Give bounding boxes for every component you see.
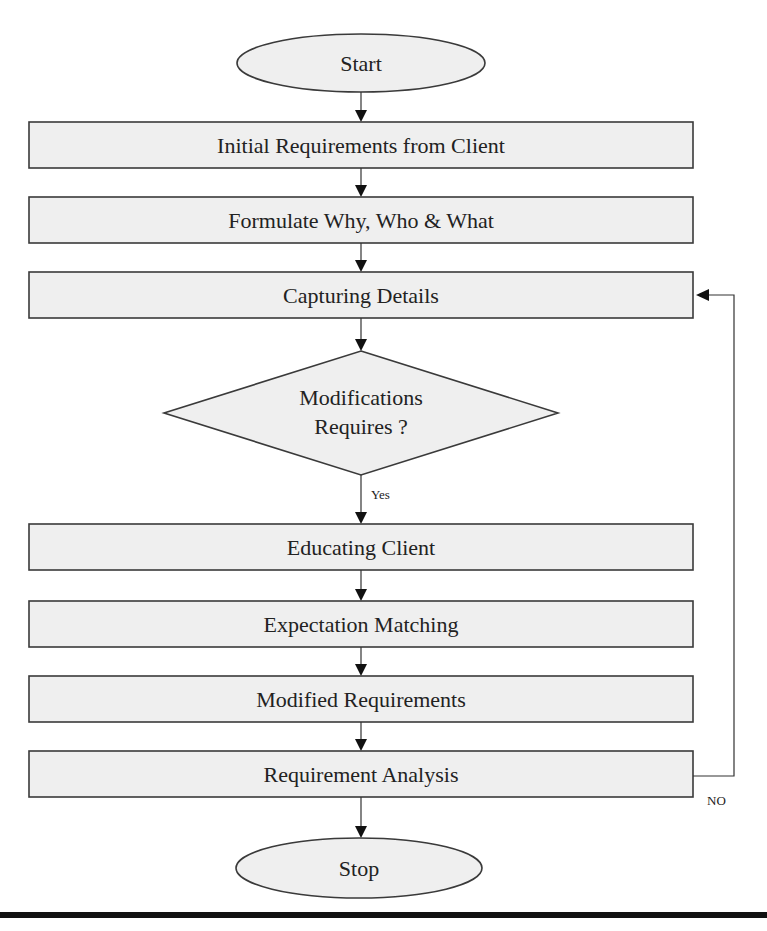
edge-modified-analysis [355, 722, 367, 751]
edge-expectation-modified [355, 647, 367, 676]
edge-analysis-capturing-no: NO [693, 289, 734, 808]
node-initial-requirements-label: Initial Requirements from Client [217, 133, 505, 158]
edge-label-no: NO [707, 793, 726, 808]
node-formulate-label: Formulate Why, Who & What [228, 208, 494, 233]
node-requirement-analysis-label: Requirement Analysis [264, 762, 459, 787]
edge-label-yes: Yes [371, 487, 390, 502]
node-modified-requirements: Modified Requirements [29, 676, 693, 722]
node-educating-client-label: Educating Client [287, 535, 435, 560]
arrow-down-icon [355, 110, 367, 122]
node-decision: Modifications Requires ? [164, 351, 558, 475]
node-stop: Stop [236, 838, 482, 898]
node-decision-label-line1: Modifications [299, 385, 422, 410]
node-start-label: Start [340, 51, 382, 76]
arrow-down-icon [355, 512, 367, 524]
edge-start-initial [355, 92, 367, 122]
node-formulate: Formulate Why, Who & What [29, 197, 693, 243]
requirements-flowchart: Start Initial Requirements from Client F… [0, 0, 767, 931]
arrow-down-icon [355, 826, 367, 838]
node-expectation-matching-label: Expectation Matching [264, 612, 459, 637]
node-modified-requirements-label: Modified Requirements [256, 687, 466, 712]
node-initial-requirements: Initial Requirements from Client [29, 122, 693, 168]
node-start: Start [237, 34, 485, 92]
edge-decision-educating: Yes [355, 475, 390, 524]
arrow-down-icon [355, 185, 367, 197]
node-educating-client: Educating Client [29, 524, 693, 570]
edge-formulate-capturing [355, 243, 367, 272]
edge-capturing-decision [355, 318, 367, 351]
node-stop-label: Stop [339, 856, 379, 881]
arrow-down-icon [355, 339, 367, 351]
edge-educating-expectation [355, 570, 367, 601]
arrow-left-icon [696, 289, 709, 301]
node-expectation-matching: Expectation Matching [29, 601, 693, 647]
edge-initial-formulate [355, 168, 367, 197]
arrow-down-icon [355, 260, 367, 272]
node-decision-label-line2: Requires ? [314, 414, 407, 439]
bottom-rule [0, 912, 767, 918]
node-capturing-details: Capturing Details [29, 272, 693, 318]
node-requirement-analysis: Requirement Analysis [29, 751, 693, 797]
node-capturing-details-label: Capturing Details [283, 283, 439, 308]
arrow-down-icon [355, 739, 367, 751]
arrow-down-icon [355, 664, 367, 676]
edge-analysis-stop [355, 797, 367, 838]
arrow-down-icon [355, 589, 367, 601]
